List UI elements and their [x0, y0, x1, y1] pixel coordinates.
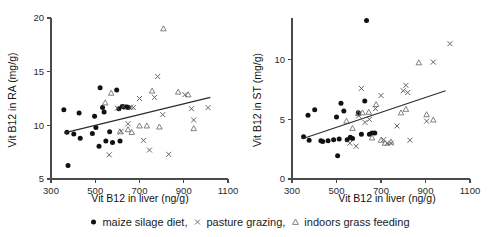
data-point-maize-silage [97, 144, 102, 149]
data-point-pasture-grazing [431, 60, 436, 65]
data-point-indoors-grass [149, 88, 155, 93]
x-axis-title-right: Vit B12 in liver (ng/g) [338, 192, 435, 204]
data-point-maize-silage [362, 98, 367, 103]
data-point-pasture-grazing [447, 41, 452, 46]
data-point-maize-silage [350, 136, 355, 141]
triangle-icon [289, 216, 302, 228]
legend-label: indoors grass feeding [304, 216, 409, 228]
data-point-indoors-grass [416, 60, 422, 65]
data-point-indoors-grass [191, 126, 197, 131]
data-point-indoors-grass [424, 112, 430, 117]
data-point-maize-silage [118, 138, 123, 143]
data-point-maize-silage [110, 140, 115, 145]
data-point-maize-silage [341, 109, 346, 114]
y-tick-label: 15 [33, 66, 44, 77]
data-point-pasture-grazing [395, 123, 400, 128]
data-point-pasture-grazing [191, 117, 196, 122]
data-point-indoors-grass [403, 106, 409, 111]
axes-right [288, 18, 470, 183]
legend-entry: indoors grass feeding [289, 216, 409, 228]
figure-legend: maize silage diet,pasture grazing,indoor… [0, 206, 497, 237]
tick-labels-left: 30050070090011005101520 [33, 12, 238, 196]
legend-label: maize silage diet [102, 216, 184, 228]
legend-label: pasture grazing [206, 216, 282, 228]
data-point-indoors-grass [117, 129, 123, 134]
data-point-indoors-grass [161, 26, 167, 31]
data-point-indoors-grass [175, 89, 181, 94]
data-point-maize-silage [92, 114, 97, 119]
data-point-pasture-grazing [347, 141, 352, 146]
data-point-pasture-grazing [160, 112, 165, 117]
data-point-indoors-grass [108, 90, 114, 95]
data-point-indoors-grass [185, 92, 191, 97]
data-point-pasture-grazing [362, 120, 367, 125]
data-point-pasture-grazing [137, 96, 142, 101]
y-tick-label: 10 [274, 54, 285, 65]
data-point-maize-silage [334, 114, 339, 119]
x-axis-title-left: Vit B12 in liver (ng/g) [91, 192, 188, 204]
data-point-indoors-grass [125, 127, 131, 132]
data-point-indoors-grass [398, 110, 404, 115]
legend-items: maize silage diet,pasture grazing,indoor… [87, 216, 409, 228]
data-point-maize-silage [103, 138, 108, 143]
data-point-maize-silage [78, 136, 83, 141]
data-point-pasture-grazing [407, 138, 412, 143]
data-point-maize-silage [364, 18, 369, 23]
x-tick-label: 300 [284, 185, 300, 196]
data-point-pasture-grazing [189, 106, 194, 111]
y-axis-title-left: Vit B12 in RA (mg/g) [6, 53, 18, 148]
data-point-indoors-grass [137, 123, 143, 128]
data-point-pasture-grazing [401, 88, 406, 93]
data-point-maize-silage [71, 131, 76, 136]
data-point-pasture-grazing [152, 95, 157, 100]
data-point-pasture-grazing [405, 90, 410, 95]
data-point-maize-silage [306, 113, 311, 118]
data-point-maize-silage [90, 131, 95, 136]
data-point-indoors-grass [157, 124, 163, 129]
data-point-pasture-grazing [141, 138, 146, 143]
data-point-pasture-grazing [359, 86, 364, 91]
data-point-maize-silage [320, 139, 325, 144]
x-tick-label: 1100 [460, 185, 480, 196]
data-point-maize-silage [107, 129, 112, 134]
data-points-right [301, 18, 452, 158]
data-point-pasture-grazing [147, 148, 152, 153]
y-tick-label: 0 [280, 173, 285, 184]
data-point-maize-silage [331, 137, 336, 142]
data-point-indoors-grass [144, 123, 150, 128]
data-point-pasture-grazing [107, 152, 112, 157]
legend-entry: maize silage diet, [87, 216, 191, 228]
data-point-maize-silage [61, 107, 66, 112]
x-tick-label: 300 [43, 185, 59, 196]
data-point-pasture-grazing [166, 152, 171, 157]
data-point-maize-silage [326, 138, 331, 143]
x-tick-label: 1100 [218, 185, 238, 196]
data-point-pasture-grazing [155, 74, 160, 79]
data-point-maize-silage [312, 107, 317, 112]
tick-labels-right: 30050070090011000510 [274, 54, 480, 196]
figure-container: 30050070090011005101520 Vit B12 in RA (m… [0, 0, 497, 237]
y-tick-label: 10 [33, 120, 44, 131]
filled-circle-icon [87, 216, 100, 228]
legend-separator: , [282, 216, 285, 228]
data-point-indoors-grass [350, 125, 356, 130]
data-point-indoors-grass [102, 100, 108, 105]
axis-lines [292, 18, 470, 179]
data-point-pasture-grazing [367, 117, 372, 122]
data-point-pasture-grazing [125, 121, 130, 126]
y-tick-label: 5 [280, 114, 285, 125]
data-point-indoors-grass [366, 109, 372, 114]
data-point-maize-silage [359, 132, 364, 137]
data-point-pasture-grazing [206, 105, 211, 110]
data-point-maize-silage [77, 110, 82, 115]
y-axis-title-right: Vit B12 in ST (mg/g) [251, 53, 263, 147]
data-point-maize-silage [307, 138, 312, 143]
y-tick-label: 5 [39, 173, 44, 184]
data-point-maize-silage [335, 153, 340, 158]
data-point-pasture-grazing [403, 83, 408, 88]
data-point-pasture-grazing [424, 119, 429, 124]
data-point-indoors-grass [373, 102, 379, 107]
data-point-indoors-grass [344, 118, 350, 123]
data-point-maize-silage [114, 87, 119, 92]
chart-panel-right: 30050070090011000510 Vit B12 in ST (mg/g… [245, 0, 497, 205]
